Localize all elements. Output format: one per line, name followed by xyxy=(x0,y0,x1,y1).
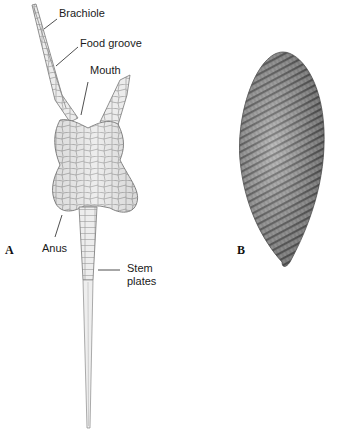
anus-leader xyxy=(55,215,62,237)
helicoplacoid-organism xyxy=(240,52,325,267)
label-brachiole: Brachiole xyxy=(59,7,105,19)
brachiole-leader xyxy=(44,19,57,29)
panel-letter-a: A xyxy=(5,243,14,258)
label-mouth: Mouth xyxy=(90,64,121,76)
label-food-groove: Food groove xyxy=(80,37,142,49)
diagram-canvas xyxy=(0,0,337,431)
mouth-leader xyxy=(81,82,88,115)
label-stem-line1: Stem xyxy=(127,262,156,275)
label-stem-line2: plates xyxy=(127,275,156,288)
label-stem-plates: Stem plates xyxy=(127,262,156,288)
panel-letter-b: B xyxy=(237,243,245,258)
right-arm xyxy=(100,75,130,125)
brachiole-arm xyxy=(32,4,78,122)
stem-upper xyxy=(79,207,97,280)
food-groove-line xyxy=(34,8,66,108)
food-groove-leader xyxy=(56,47,78,66)
cystoid-organism xyxy=(32,4,138,428)
label-anus: Anus xyxy=(42,242,67,254)
